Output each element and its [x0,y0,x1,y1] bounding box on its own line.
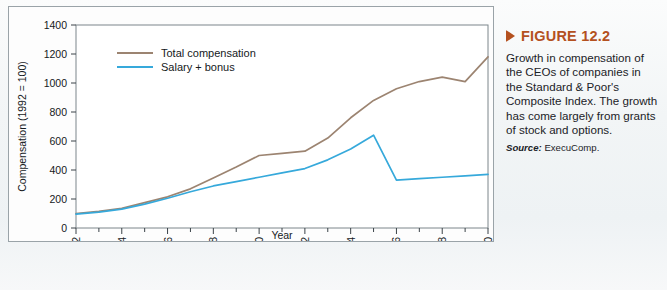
y-axis-tick-label: 1000 [44,77,68,89]
x-axis-tick-label: 2006 [390,237,402,241]
legend-label-2: Salary + bonus [161,61,235,73]
y-axis-tick-label: 1200 [44,48,68,60]
x-axis-tick-label: 2000 [253,237,265,241]
source-value: ExecuComp. [544,142,599,153]
y-axis-tick-label: 1400 [44,19,68,31]
y-axis-tick-label: 0 [61,222,67,234]
figure-description: Growth in compensation of the CEOs of co… [506,51,658,137]
figure-number-title: FIGURE 12.2 [521,28,610,44]
figure-12-2: 0200400600800100012001400Compensation (1… [0,0,667,290]
x-axis-tick-label: 1996 [162,237,174,241]
chart-panel: 0200400600800100012001400Compensation (1… [8,6,494,242]
x-axis-tick-label: 1992 [70,237,82,241]
y-axis-tick-label: 600 [49,135,67,147]
x-axis-tick-label: 2010 [482,237,493,241]
x-axis-tick-label: 1998 [207,237,219,241]
source-label: Source: [506,142,542,153]
x-axis-tick-label: 2004 [345,237,357,241]
line-chart: 0200400600800100012001400Compensation (1… [9,7,493,241]
x-axis-tick-label: 2002 [299,237,311,241]
x-axis-title: Year [271,229,293,241]
y-axis-tick-label: 800 [49,106,67,118]
plot-frame [76,25,488,228]
figure-source: Source: ExecuComp. [506,142,658,153]
y-axis-title: Compensation (1992 = 100) [16,61,28,191]
x-axis-tick-label: 2008 [436,237,448,241]
y-axis-tick-label: 400 [49,164,67,176]
legend-label-1: Total compensation [161,47,256,59]
triangle-right-icon [506,30,515,42]
figure-caption: FIGURE 12.2 Growth in compensation of th… [506,28,658,153]
x-axis-tick-label: 1994 [116,237,128,241]
figure-title-row: FIGURE 12.2 [506,28,658,44]
y-axis-tick-label: 200 [49,193,67,205]
